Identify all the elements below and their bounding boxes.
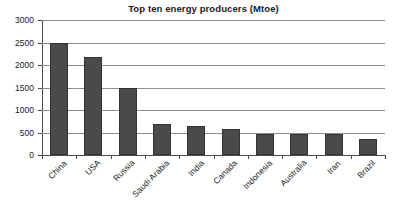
- x-tick-mark: [42, 155, 43, 159]
- x-tick-mark: [316, 155, 317, 159]
- y-tick-mark: [38, 65, 42, 66]
- x-tick-mark: [145, 155, 146, 159]
- y-tick-mark: [38, 88, 42, 89]
- x-tick-mark: [385, 155, 386, 159]
- x-tick-mark: [111, 155, 112, 159]
- x-tick-mark: [351, 155, 352, 159]
- y-tick-mark: [38, 110, 42, 111]
- y-tick-mark: [38, 20, 42, 21]
- y-tick-label: 2500: [0, 38, 34, 48]
- y-tick-mark: [38, 133, 42, 134]
- y-tick-label: 1500: [0, 83, 34, 93]
- bar-chart: Top ten energy producers (Mtoe) 05001000…: [0, 0, 407, 218]
- x-tick-mark: [76, 155, 77, 159]
- y-tick-label: 2000: [0, 60, 34, 70]
- y-tick-label: 1000: [0, 105, 34, 115]
- y-tick-label: 3000: [0, 15, 34, 25]
- x-tick-mark: [214, 155, 215, 159]
- y-tick-label: 0: [0, 150, 34, 160]
- x-tick-mark: [282, 155, 283, 159]
- y-axis-labels: 050010001500200025003000: [0, 0, 407, 218]
- x-tick-mark: [179, 155, 180, 159]
- x-tick-mark: [248, 155, 249, 159]
- y-tick-mark: [38, 43, 42, 44]
- y-tick-label: 500: [0, 128, 34, 138]
